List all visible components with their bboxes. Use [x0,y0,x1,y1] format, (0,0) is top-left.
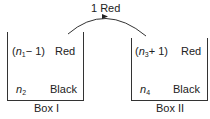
box-1-black-count: n2 [16,83,26,99]
box-1-red-count: (n1− 1) [12,45,45,61]
transfer-label: 1 Red [91,2,120,14]
box-2-black-count: n4 [140,83,150,99]
box-2-red-count: (n3+ 1) [135,45,168,61]
box-1-label: Box I [34,102,59,114]
box-1-red-label: Red [55,45,75,57]
box-1-black-label: Black [50,83,77,95]
box-2-black-label: Black [173,83,200,95]
box-2-red-label: Red [181,45,201,57]
box-2-label: Box II [156,102,184,114]
